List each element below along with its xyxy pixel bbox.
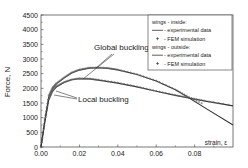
data-point [201,102,203,104]
y-tick-label: 1000 [22,114,38,121]
y-axis: 050010001500200025003000350040004500 [22,12,43,151]
y-axis-label: Force, N [3,66,12,97]
legend-header: wings - inside: [151,19,187,25]
y-tick-label: 2000 [22,85,38,92]
legend-entry: wings - outside: [151,44,191,50]
annotation-local-buckling: Local buckling [78,95,129,104]
series-line [41,79,233,147]
legend-entry: - FEM simulation [156,61,205,67]
y-tick-label: 1500 [22,100,38,107]
x-axis-label: strain, ε [205,139,228,146]
y-tick-label: 3500 [22,41,38,48]
x-tick-label: 0.02 [73,150,87,157]
x-tick-label: 0.06 [149,150,163,157]
x-tick-label: 0.08 [188,150,202,157]
y-tick-label: 4000 [22,26,38,33]
x-axis: 0.000.020.040.060.08 [34,145,214,158]
force-strain-chart: 050010001500200025003000350040004500 0.0… [0,0,248,168]
legend-label: - FEM simulation [164,36,205,42]
x-tick-label: 0.04 [111,150,125,157]
x-tick-label: 0.00 [34,150,48,157]
annotation-arrow [96,54,112,68]
data-point [198,101,200,103]
legend: wings - inside:- experimental data- FEM … [148,15,232,70]
series-layer [40,66,233,148]
y-tick-label: 2500 [22,70,38,77]
data-point [40,146,42,148]
legend-entry: - FEM simulation [156,36,205,42]
legend-header: wings - outside: [151,44,191,50]
y-tick-label: 500 [26,129,38,136]
series-3 [40,77,229,148]
legend-label: - FEM simulation [164,61,205,67]
legend-entry: wings - inside: [151,19,187,25]
y-tick-label: 3000 [22,56,38,63]
legend-label: - experimental data [164,27,212,33]
annotation-arrow [83,54,114,79]
series-2 [41,79,233,147]
series-1 [40,66,203,148]
legend-label: - experimental data [164,52,212,58]
data-point [42,129,44,131]
y-tick-label: 4500 [22,12,38,19]
annotation-global-buckling: Global buckling [94,43,149,52]
